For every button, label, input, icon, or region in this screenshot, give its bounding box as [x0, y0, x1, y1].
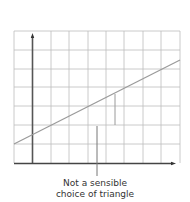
x-axis-arrow-icon — [171, 162, 176, 165]
x-axis — [14, 162, 176, 165]
annotation-line-1: Not a sensible — [0, 178, 190, 189]
annotation-label: Not a sensible choice of triangle — [0, 178, 190, 200]
graph-diagram — [0, 0, 190, 202]
annotation-line-2: choice of triangle — [0, 189, 190, 200]
y-axis-arrow-icon — [31, 33, 34, 38]
